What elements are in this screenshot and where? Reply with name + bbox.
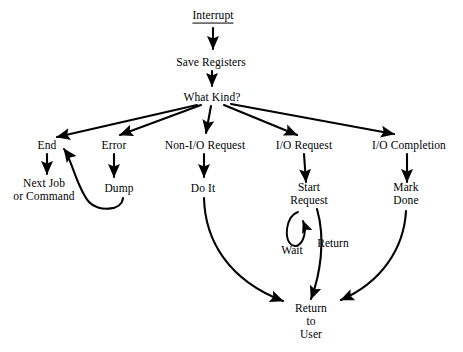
node-return-to-user-line-0: Return <box>295 302 327 315</box>
node-error-line-0: Error <box>102 139 127 152</box>
node-what-kind: What Kind? <box>184 91 241 104</box>
node-save-registers: Save Registers <box>176 56 245 69</box>
node-non-io-request: Non-I/O Request <box>165 139 245 152</box>
node-what-kind-line-0: What Kind? <box>184 91 241 104</box>
edge-start-request-wait-loop <box>287 212 305 246</box>
edge-start-request-to-return-to-user <box>311 209 321 299</box>
edge-what-kind-to-non-io-request <box>206 106 211 133</box>
node-mark-done: Mark Done <box>393 181 418 207</box>
node-do-it-line-0: Do It <box>191 182 215 195</box>
flowchart-edges <box>0 0 463 352</box>
node-next-job-line-1: or Command <box>13 190 74 203</box>
node-next-job-or-command: Next Job or Command <box>13 177 74 203</box>
edge-label-return: Return <box>317 237 348 249</box>
node-end: End <box>38 139 57 152</box>
node-start-request: Start Request <box>290 181 328 207</box>
node-start-request-line-0: Start <box>290 181 328 194</box>
node-dump-line-0: Dump <box>104 182 133 195</box>
node-return-to-user-line-1: to <box>295 315 327 328</box>
edge-mark-done-to-return-to-user <box>341 211 406 300</box>
node-io-request: I/O Request <box>276 139 332 152</box>
node-interrupt: Interrupt <box>192 9 233 24</box>
edge-do-it-to-return-to-user <box>204 198 283 301</box>
edge-label-wait: Wait <box>281 244 302 256</box>
node-do-it: Do It <box>191 182 215 195</box>
node-save-registers-line-0: Save Registers <box>176 56 245 69</box>
node-return-to-user-line-2: User <box>295 327 327 340</box>
node-io-completion-line-0: I/O Completion <box>372 139 446 152</box>
node-io-completion: I/O Completion <box>372 139 446 152</box>
node-dump: Dump <box>104 182 133 195</box>
node-start-request-line-1: Request <box>290 194 328 207</box>
node-io-request-line-0: I/O Request <box>276 139 332 152</box>
node-end-line-0: End <box>38 139 57 152</box>
node-error: Error <box>102 139 127 152</box>
node-non-io-request-line-0: Non-I/O Request <box>165 139 245 152</box>
node-mark-done-line-1: Done <box>393 194 418 207</box>
node-return-to-user: Return to User <box>295 302 327 341</box>
node-mark-done-line-0: Mark <box>393 181 418 194</box>
edge-io-request-to-start-request <box>304 154 306 182</box>
node-next-job-line-0: Next Job <box>13 177 74 190</box>
node-interrupt-line-0: Interrupt <box>192 9 233 24</box>
flowchart-diagram: Interrupt Save Registers What Kind? End … <box>0 0 463 352</box>
